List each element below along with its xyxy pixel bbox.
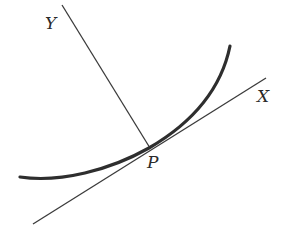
x-axis-line: [33, 78, 266, 224]
diagram-canvas: Y X P: [0, 0, 282, 237]
curve: [20, 46, 230, 178]
point-p-label: P: [146, 152, 159, 172]
y-axis-label: Y: [45, 13, 58, 33]
x-axis-label: X: [255, 86, 270, 106]
y-axis-line: [62, 5, 150, 148]
diagram-svg: Y X P: [0, 0, 282, 237]
